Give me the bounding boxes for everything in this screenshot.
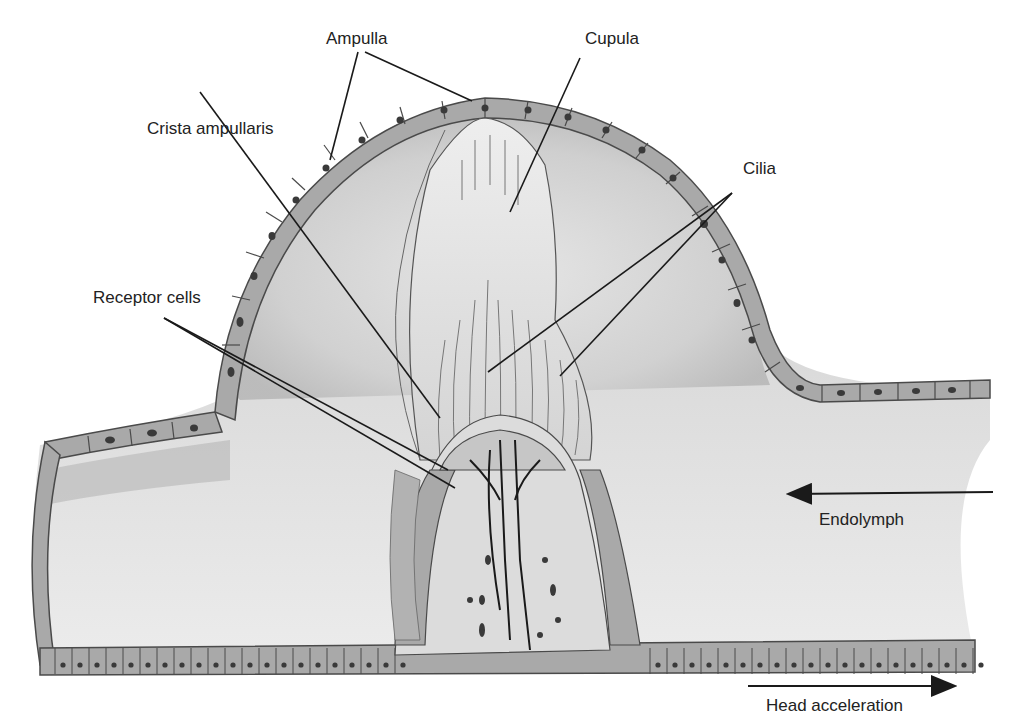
leader-ampulla-right [365, 52, 472, 101]
label-crista-ampullaris: Crista ampullaris [147, 120, 274, 137]
ampulla-diagram: Ampulla Cupula Crista ampullaris Cilia R… [0, 0, 1017, 728]
diagram-canvas [0, 0, 1017, 728]
label-ampulla: Ampulla [326, 30, 387, 47]
label-head-acceleration: Head acceleration [766, 697, 903, 714]
label-endolymph: Endolymph [819, 511, 904, 528]
leader-ampulla-left [330, 52, 358, 160]
label-cupula: Cupula [585, 30, 639, 47]
label-receptor-cells: Receptor cells [93, 289, 201, 306]
label-cilia: Cilia [743, 160, 776, 177]
